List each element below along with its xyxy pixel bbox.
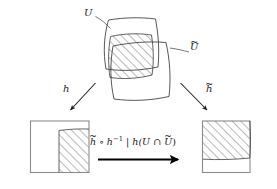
formula-h-tilde: ~h bbox=[90, 137, 96, 147]
tilde-accent-formula-h: ~ bbox=[89, 132, 97, 141]
formula-set-U: U bbox=[142, 136, 150, 147]
tilde-accent-formula-U: ~ bbox=[164, 132, 172, 141]
top-overlapping-patches bbox=[95, 17, 189, 101]
leader-line-U-tilde bbox=[170, 48, 189, 52]
arrow-h bbox=[71, 83, 96, 110]
formula-close-paren: ) bbox=[172, 136, 176, 147]
label-map-h-tilde: ~h bbox=[206, 84, 212, 94]
formula-compose-operator: ∘ bbox=[96, 136, 107, 147]
label-set-U: U bbox=[84, 8, 92, 18]
label-map-h-tilde-glyph: ~h bbox=[206, 84, 212, 94]
formula-set-U-tilde: ~U bbox=[164, 137, 172, 147]
label-set-U-tilde-glyph: ~U bbox=[190, 42, 198, 52]
arrow-h-tilde bbox=[181, 83, 208, 110]
left-chart-box bbox=[31, 121, 96, 176]
formula-restriction-bar: | bbox=[123, 136, 132, 147]
label-map-h: h bbox=[63, 84, 69, 94]
patch-intersection-hatch bbox=[95, 22, 175, 94]
label-transition-map-formula: ~h ∘ h−1 | h(U ∩ ~U ) bbox=[90, 136, 176, 147]
tilde-accent-U: ~ bbox=[190, 37, 198, 47]
tilde-accent-h: ~ bbox=[205, 79, 213, 89]
formula-intersection-operator: ∩ bbox=[150, 136, 164, 147]
formula-h-inverse-exponent: −1 bbox=[113, 135, 123, 143]
leader-line-U bbox=[96, 17, 111, 29]
right-box-hatch bbox=[200, 118, 254, 164]
chart-transition-diagram: U ~U h ~h ~h ∘ h−1 | h(U ∩ ~U ) bbox=[0, 0, 277, 189]
diagram-canvas bbox=[0, 0, 277, 189]
right-chart-box bbox=[200, 118, 254, 173]
label-set-U-tilde: ~U bbox=[190, 42, 198, 52]
formula-image-fn: h( bbox=[132, 136, 142, 147]
